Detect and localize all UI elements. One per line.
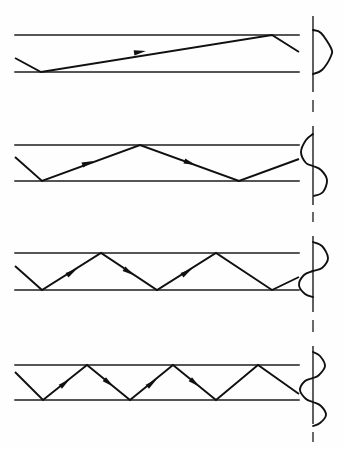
- figure-root: Waveguide ray paths and transverse mode …: [0, 0, 345, 449]
- ray-direction-arrow-icon: [134, 48, 147, 55]
- panels-group: Lowest-order mode: shallowest ray angle,…: [15, 16, 332, 442]
- ray-path: [15, 145, 299, 181]
- mode-panel-2: Second-order mode: steeper ray angle, tw…: [15, 126, 327, 222]
- ray-path: [15, 35, 299, 72]
- ray-direction-arrow-icon: [183, 159, 196, 168]
- ray-path: [15, 365, 299, 400]
- ray-path: [15, 253, 299, 290]
- mode-panel-1: Lowest-order mode: shallowest ray angle,…: [15, 16, 332, 112]
- mode-panel-4: Fourth-order mode: steepest ray angle, f…: [15, 346, 326, 442]
- ray-direction-arrow-icon: [123, 267, 136, 278]
- mode-field-profile-curve: [301, 134, 327, 196]
- waveguide-mode-figure: Waveguide ray paths and transverse mode …: [0, 0, 345, 449]
- mode-field-profile-curve: [313, 30, 332, 74]
- mode-panel-3: Third-order mode: steeper still, three-l…: [15, 236, 328, 332]
